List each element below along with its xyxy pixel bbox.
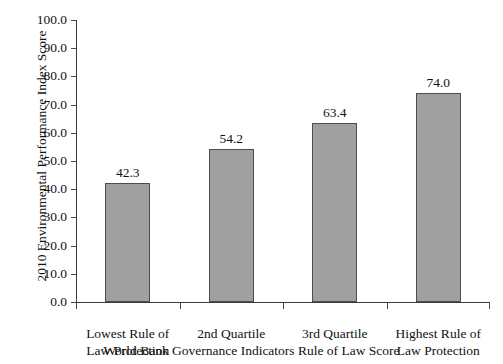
- y-tick: 80.0: [4, 76, 76, 77]
- y-tick: 70.0: [4, 105, 76, 106]
- y-tick-mark: [71, 246, 76, 247]
- y-tick-mark: [71, 189, 76, 190]
- x-tick-mark: [76, 303, 77, 309]
- y-tick-mark: [71, 217, 76, 218]
- x-category-label-line: 3rd Quartile: [283, 326, 387, 343]
- y-tick-label: 100.0: [37, 11, 67, 28]
- y-axis-line: [76, 20, 77, 303]
- y-tick: 100.0: [4, 20, 76, 21]
- y-tick: 0.0: [4, 302, 76, 303]
- y-tick-mark: [71, 76, 76, 77]
- y-tick-mark: [71, 161, 76, 162]
- y-tick: 60.0: [4, 133, 76, 134]
- bar: [416, 93, 461, 302]
- y-tick-label: 40.0: [43, 180, 67, 197]
- y-tick-mark: [71, 20, 76, 21]
- y-tick-label: 0.0: [50, 293, 67, 310]
- y-tick-label: 60.0: [43, 124, 67, 141]
- y-tick: 30.0: [4, 217, 76, 218]
- bar: [312, 123, 357, 302]
- x-category-label-line: Lowest Rule of: [76, 326, 180, 343]
- bar-chart-figure: 2010 Environmental Performance Index Sco…: [0, 0, 503, 364]
- y-tick-mark: [71, 105, 76, 106]
- bar-value-label: 63.4: [295, 105, 375, 120]
- bar-value-label: 42.3: [88, 165, 168, 180]
- x-tick-mark: [283, 303, 284, 309]
- y-tick: 50.0: [4, 161, 76, 162]
- bar: [105, 183, 150, 302]
- y-tick-mark: [71, 48, 76, 49]
- y-tick-mark: [71, 133, 76, 134]
- y-tick: 20.0: [4, 246, 76, 247]
- y-tick: 10.0: [4, 274, 76, 275]
- x-tick-mark: [387, 303, 388, 309]
- x-axis-title: World Bank Governance Indicators Rule of…: [0, 343, 503, 359]
- y-tick-label: 80.0: [43, 67, 67, 84]
- y-tick-mark: [71, 274, 76, 275]
- y-tick-label: 10.0: [43, 265, 67, 282]
- y-tick-label: 30.0: [43, 208, 67, 225]
- y-tick-label: 90.0: [43, 39, 67, 56]
- x-category-label: 2nd Quartile: [180, 326, 284, 343]
- x-tick-mark: [180, 303, 181, 309]
- cut-off-caption: [0, 0, 503, 9]
- y-tick-label: 70.0: [43, 96, 67, 113]
- x-category-label-line: Highest Rule of: [387, 326, 491, 343]
- y-tick-label: 50.0: [43, 152, 67, 169]
- bar-value-label: 54.2: [191, 131, 271, 146]
- y-tick: 40.0: [4, 189, 76, 190]
- bar: [209, 149, 254, 302]
- x-tick-mark: [489, 303, 490, 309]
- y-tick-label: 20.0: [43, 237, 67, 254]
- bar-value-label: 74.0: [398, 75, 478, 90]
- plot-area: 100.090.080.070.060.050.040.030.020.010.…: [76, 20, 490, 302]
- x-category-label-line: 2nd Quartile: [180, 326, 284, 343]
- y-tick: 90.0: [4, 48, 76, 49]
- x-category-label: 3rd Quartile: [283, 326, 387, 343]
